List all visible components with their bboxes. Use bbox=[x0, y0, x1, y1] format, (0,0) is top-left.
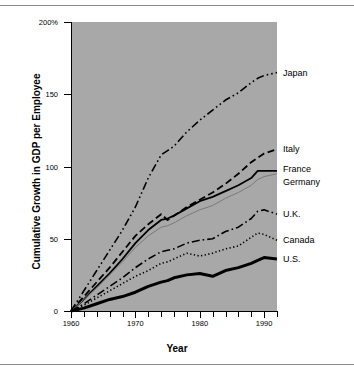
x-axis-tick-label: 1980 bbox=[191, 319, 208, 328]
x-axis-tick-label: 1990 bbox=[256, 319, 273, 328]
y-axis-tick bbox=[64, 22, 71, 23]
x-axis-minor-tick bbox=[84, 312, 85, 317]
series-line-germany bbox=[71, 174, 277, 311]
series-label-uk: U.K. bbox=[283, 209, 301, 219]
plot-area bbox=[71, 22, 277, 311]
x-axis-tick-label: 1970 bbox=[127, 319, 144, 328]
y-axis-tick-label: 150 bbox=[45, 90, 58, 99]
figure-container: 050100150200% 1960197019801990 JapanItal… bbox=[0, 0, 354, 371]
x-axis-minor-tick bbox=[161, 312, 162, 317]
series-label-us: U.S. bbox=[283, 254, 301, 264]
x-axis-minor-tick bbox=[174, 312, 175, 317]
y-axis-title: Cumulative Growth in GDP per Employee bbox=[31, 52, 42, 292]
x-axis-minor-tick bbox=[97, 312, 98, 317]
series-line-italy bbox=[71, 149, 277, 311]
series-line-us bbox=[71, 258, 277, 311]
x-axis-minor-tick bbox=[213, 312, 214, 317]
x-axis-major-tick bbox=[71, 312, 72, 318]
y-axis-tick-label: 50 bbox=[50, 234, 58, 243]
x-axis-minor-tick bbox=[187, 312, 188, 317]
y-axis-tick bbox=[64, 94, 71, 95]
y-axis-tick bbox=[64, 239, 71, 240]
x-axis-minor-tick bbox=[277, 312, 278, 317]
x-axis-major-tick bbox=[264, 312, 265, 318]
y-axis-tick-label: 100 bbox=[45, 162, 58, 171]
chart-plot-wrapper: 050100150200% 1960197019801990 JapanItal… bbox=[0, 0, 354, 371]
series-label-italy: Italy bbox=[283, 144, 300, 154]
series-lines-svg bbox=[71, 22, 277, 311]
x-axis-major-tick bbox=[200, 312, 201, 318]
series-line-france bbox=[71, 171, 277, 311]
series-label-france: France bbox=[283, 164, 311, 174]
x-axis-minor-tick bbox=[238, 312, 239, 317]
x-axis-minor-tick bbox=[226, 312, 227, 317]
y-axis-line bbox=[71, 22, 72, 311]
x-axis-tick-label: 1960 bbox=[63, 319, 80, 328]
y-axis-tick bbox=[64, 311, 71, 312]
series-label-canada: Canada bbox=[283, 235, 315, 245]
x-axis-minor-tick bbox=[251, 312, 252, 317]
x-axis-title: Year bbox=[0, 343, 354, 354]
series-label-japan: Japan bbox=[283, 68, 308, 78]
y-axis-tick-label: 200% bbox=[39, 18, 58, 27]
x-axis-minor-tick bbox=[148, 312, 149, 317]
x-axis-minor-tick bbox=[123, 312, 124, 317]
x-axis-minor-tick bbox=[110, 312, 111, 317]
x-axis-major-tick bbox=[135, 312, 136, 318]
series-label-germany: Germany bbox=[283, 177, 320, 187]
y-axis-tick-label: 0 bbox=[54, 307, 58, 316]
y-axis-tick bbox=[64, 167, 71, 168]
series-line-canada bbox=[71, 233, 277, 311]
